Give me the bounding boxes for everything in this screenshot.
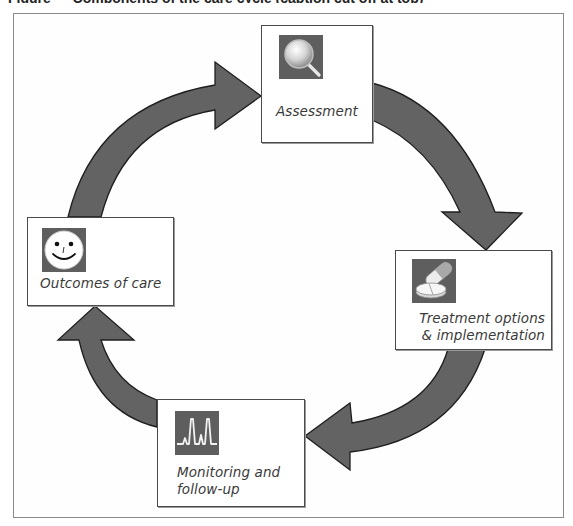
node-outcomes: Outcomes of care bbox=[27, 217, 174, 306]
magnifying-glass-icon bbox=[279, 35, 323, 79]
node-treatment: Treatment options & implementation bbox=[395, 250, 552, 350]
heartbeat-monitor-icon bbox=[175, 411, 219, 455]
node-label: Treatment options & implementation bbox=[396, 310, 545, 344]
node-assessment: Assessment bbox=[261, 25, 373, 143]
node-label: Monitoring and follow-up bbox=[177, 464, 280, 498]
arrow-treatment-to-monitoring bbox=[305, 349, 485, 470]
arrow-outcomes-to-assessment bbox=[68, 62, 261, 217]
smiley-face-icon bbox=[42, 228, 86, 272]
node-monitoring: Monitoring and follow-up bbox=[157, 399, 305, 507]
arrow-assessment-to-treatment bbox=[372, 83, 522, 250]
node-label: Assessment bbox=[262, 103, 372, 120]
pill-tablet-icon bbox=[412, 259, 456, 303]
node-label: Outcomes of care bbox=[40, 275, 161, 292]
arrow-monitoring-to-outcomes bbox=[58, 306, 157, 427]
